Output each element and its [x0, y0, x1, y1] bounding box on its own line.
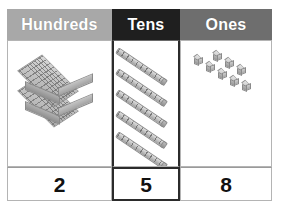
digit-cell-ones: 8 [180, 167, 272, 201]
unit-cube-block [224, 57, 235, 68]
cube-right-face [198, 57, 203, 65]
unit-cube-block [236, 64, 247, 75]
rod-end-cap [160, 162, 168, 167]
cube-right-face [229, 60, 234, 68]
ones-cubes-group [181, 41, 271, 166]
column-header-ones: Ones [180, 9, 272, 40]
column-header-tens: Tens [112, 9, 180, 40]
rod-end-cap [160, 99, 168, 108]
blocks-cell-ones [180, 40, 272, 167]
cube-right-face [241, 67, 246, 75]
hundreds-flats-group [22, 55, 100, 129]
table-blocks-row [7, 40, 272, 167]
tens-rods-group [114, 41, 178, 166]
cube-right-face [210, 64, 215, 72]
unit-cube-block [205, 61, 216, 72]
rod-end-cap [160, 141, 168, 150]
cube-right-face [234, 78, 239, 86]
hundred-flat-block [22, 55, 94, 99]
cube-right-face [246, 83, 251, 91]
unit-cube-block [212, 50, 223, 61]
column-header-hundreds: Hundreds [7, 9, 112, 40]
rod-end-cap [160, 78, 168, 87]
place-value-chart-screen: Hundreds Tens Ones [0, 0, 282, 209]
blocks-cell-tens [112, 40, 180, 167]
place-value-table: Hundreds Tens Ones [7, 9, 272, 201]
cube-right-face [222, 71, 227, 79]
digit-cell-tens: 5 [112, 167, 180, 201]
rod-end-cap [160, 120, 168, 129]
table-header-row: Hundreds Tens Ones [7, 9, 272, 40]
unit-cube-block [193, 54, 204, 65]
unit-cube-block [241, 80, 252, 91]
table-digits-row: 2 5 8 [7, 167, 272, 201]
unit-cube-block [217, 68, 228, 79]
unit-cube-block [229, 75, 240, 86]
blocks-cell-hundreds [7, 40, 112, 167]
cube-right-face [217, 53, 222, 61]
digit-cell-hundreds: 2 [7, 167, 112, 201]
